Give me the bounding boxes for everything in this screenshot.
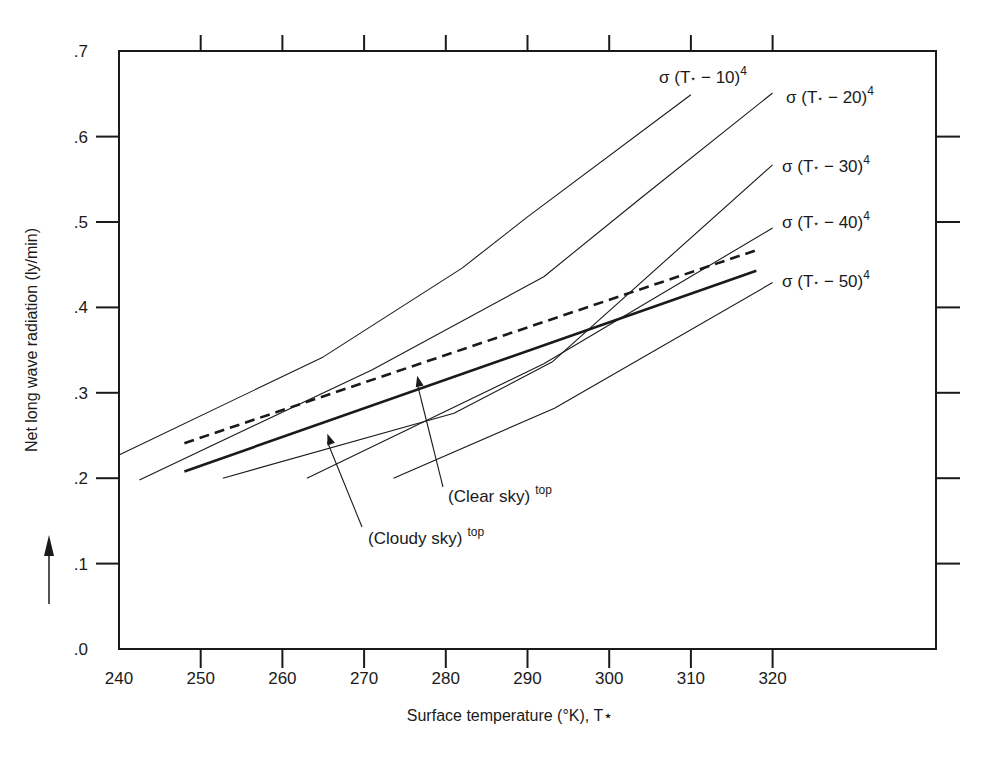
arrowhead-icon [327,434,335,446]
x-tick-label: 290 [513,669,541,688]
curve-label: σ (T⋆ − 50)4 [782,268,870,291]
x-tick-label: 240 [105,669,133,688]
curve-label: σ (T⋆ − 40)4 [782,209,870,232]
y-tick-label: .2 [74,469,88,488]
chart: 240250260270280290300310320 .0.1.2.3.4.5… [0,0,992,758]
x-axis-title: Surface temperature (°K), T⋆ [407,707,613,724]
y-tick-label: .6 [74,128,88,147]
x-tick-label: 250 [187,669,215,688]
curve-label: σ (T⋆ − 30)4 [782,153,870,176]
y-tick-label: .5 [74,213,88,232]
x-tick-label: 310 [677,669,705,688]
y-tick-label: .4 [74,298,88,317]
series-line [223,165,773,478]
annotation-label: (Clear sky)top [448,483,552,506]
clear-sky-annotation: (Clear sky)top [416,376,552,506]
x-tick-label: 280 [432,669,460,688]
annotation-label: (Cloudy sky)top [368,525,484,548]
series-line [184,250,756,443]
curve-label: σ (T⋆ − 20)4 [786,84,874,107]
curves [119,93,773,480]
y-axis-ticks: .0.1.2.3.4.5.6.7 [74,42,960,659]
curve-label: σ (T⋆ − 10)4 [659,64,747,87]
x-tick-label: 320 [758,669,786,688]
y-tick-label: .0 [74,640,88,659]
y-tick-label: .7 [74,42,88,61]
x-axis-ticks: 240250260270280290300310320 [105,35,787,688]
y-axis-title: Net long wave radiation (ly/min) [23,228,40,452]
annotation-arrow [417,384,443,487]
series-line [307,228,773,478]
series-line [119,95,691,455]
arrowhead-icon [416,376,424,388]
y-tick-label: .3 [74,384,88,403]
x-tick-label: 300 [595,669,623,688]
y-tick-label: .1 [74,555,88,574]
up-arrow-icon [44,535,54,604]
series-line [184,271,756,472]
x-tick-label: 260 [268,669,296,688]
annotations: (Clear sky)top(Cloudy sky)top [327,376,552,548]
series-line [394,283,773,479]
x-tick-label: 270 [350,669,378,688]
series-line [139,93,772,480]
